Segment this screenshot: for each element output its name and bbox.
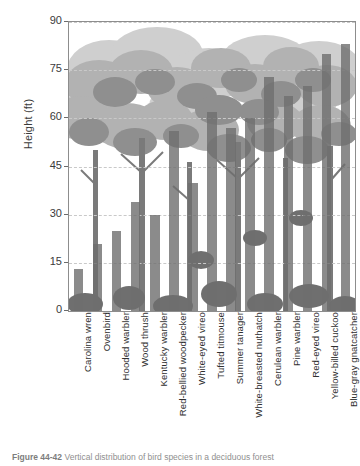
x-tick-label: Kentucky warbler: [158, 312, 169, 386]
x-tick-label: Summer tanager: [234, 312, 245, 384]
x-tick-label: Yellow-billed cuckoo: [329, 312, 340, 399]
y-tick-label: 0: [32, 304, 62, 315]
x-tick-label-wrapper: White-breasted nuthatch: [253, 312, 264, 418]
x-tick-label-wrapper: Kentucky warbler: [158, 312, 169, 386]
x-tick-label-wrapper: Ovenbird: [101, 312, 112, 351]
y-tick-label: 45: [32, 160, 62, 171]
x-tick-label: Red-bellied woodpecker: [177, 312, 188, 416]
x-tick-label: Wood thrush: [139, 312, 150, 367]
bar: [188, 183, 198, 311]
plot-area: [68, 21, 356, 312]
x-tick-label: Tufted titmouse: [215, 312, 226, 379]
x-tick-label-wrapper: Carolina wren: [82, 312, 93, 372]
bar: [74, 269, 84, 311]
x-tick-label: White-eyed vireo: [196, 312, 207, 385]
x-tick-label-wrapper: White-eyed vireo: [196, 312, 207, 385]
y-tick-label: 15: [32, 256, 62, 267]
bar: [264, 77, 274, 311]
caption-text: Vertical distribution of bird species in…: [64, 452, 273, 462]
x-tick-label: Carolina wren: [82, 312, 93, 372]
x-tick-label: Blue-gray gnatcatcher: [348, 312, 359, 407]
x-tick-label-wrapper: Red-eyed vireo: [310, 312, 321, 378]
bar: [169, 131, 179, 311]
x-tick-label-wrapper: Blue-gray gnatcatcher: [348, 312, 359, 407]
bar: [131, 202, 141, 311]
x-tick-label: Cerulean warbler: [272, 312, 283, 386]
bar: [112, 231, 122, 311]
x-tick-label: Ovenbird: [101, 312, 112, 351]
x-tick-label-wrapper: Summer tanager: [234, 312, 245, 384]
x-tick-label-wrapper: Cerulean warbler: [272, 312, 283, 386]
x-tick-label-wrapper: Hooded warbler: [120, 312, 131, 380]
x-axis-labels: Carolina wrenOvenbirdHooded warblerWood …: [68, 312, 354, 442]
figure-caption: Figure 44-42 Vertical distribution of bi…: [12, 452, 350, 464]
y-tick-label: 90: [32, 15, 62, 26]
bar: [303, 86, 313, 311]
x-tick-label-wrapper: Yellow-billed cuckoo: [329, 312, 340, 399]
x-tick-label-wrapper: Red-bellied woodpecker: [177, 312, 188, 416]
x-tick-label: Hooded warbler: [120, 312, 131, 380]
x-tick-label: Pine warbler: [291, 312, 302, 366]
x-tick-label: White-breasted nuthatch: [253, 312, 264, 418]
caption-number: Figure 44-42: [12, 452, 62, 462]
bar: [226, 128, 236, 311]
x-tick-label: Red-eyed vireo: [310, 312, 321, 378]
x-tick-label-wrapper: Tufted titmouse: [215, 312, 226, 379]
figure-container: Height (ft) 0153045607590: [0, 0, 360, 466]
x-tick-label-wrapper: Pine warbler: [291, 312, 302, 366]
y-tick-label: 30: [32, 208, 62, 219]
bar: [284, 96, 294, 311]
bar: [150, 215, 160, 311]
bar-series: [69, 22, 355, 311]
x-tick-label-wrapper: Wood thrush: [139, 312, 150, 367]
y-tick-label: 75: [32, 63, 62, 74]
bar: [93, 244, 103, 311]
bar: [207, 112, 217, 311]
bar: [341, 44, 351, 311]
bar: [322, 54, 332, 311]
bar: [245, 118, 255, 311]
y-tick-label: 60: [32, 111, 62, 122]
